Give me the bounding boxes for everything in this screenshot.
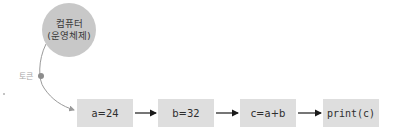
step-box-compute-c: c=a+b bbox=[240, 99, 296, 127]
step-label: c=a+b bbox=[251, 108, 286, 119]
os-label: (운영체제) bbox=[47, 30, 90, 42]
step-box-assign-b: b=32 bbox=[158, 99, 214, 127]
step-label: b=32 bbox=[172, 108, 199, 119]
token-dot-icon bbox=[38, 73, 44, 79]
program-flow-diagram: 컴퓨터 (운영체제) 토큰 a=24 b=32 c=a+b print(c) bbox=[0, 0, 397, 134]
computer-label: 컴퓨터 bbox=[56, 18, 83, 30]
token-label: 토큰 bbox=[19, 70, 33, 81]
decorative-speck bbox=[3, 93, 5, 95]
step-box-print: print(c) bbox=[323, 99, 379, 127]
step-box-assign-a: a=24 bbox=[77, 99, 133, 127]
step-label: print(c) bbox=[327, 108, 375, 119]
computer-os-node: 컴퓨터 (운영체제) bbox=[42, 3, 96, 57]
step-label: a=24 bbox=[91, 108, 118, 119]
